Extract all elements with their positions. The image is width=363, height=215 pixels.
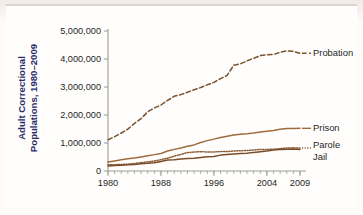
x-tick-label: 2009 [290, 178, 310, 188]
chart-figure: 01,000,0002,000,0003,000,0004,000,0005,0… [0, 0, 363, 215]
series-label-jail: Jail [313, 151, 327, 162]
series-line-probation [108, 51, 300, 140]
y-axis-title-line1: Adult Correctional [16, 56, 27, 140]
y-axis-title-line2: Populations, 1980–2009 [28, 44, 39, 152]
x-axis-ticks [108, 171, 300, 176]
line-chart: 01,000,0002,000,0003,000,0004,000,0005,0… [0, 0, 363, 215]
series-label-prison: Prison [313, 122, 340, 133]
y-axis-title: Adult Correctional Populations, 1980–200… [16, 44, 39, 152]
x-axis-tick-labels: 19801988199620042009 [98, 178, 310, 188]
series-labels-group: ProbationPrisonParoleJail [302, 47, 353, 162]
x-tick-label: 1980 [98, 178, 118, 188]
data-series-group [108, 51, 300, 166]
y-tick-label: 2,000,000 [60, 110, 101, 120]
x-tick-label: 1996 [204, 178, 224, 188]
y-tick-label: 5,000,000 [60, 26, 101, 36]
y-tick-label: 1,000,000 [60, 138, 101, 148]
y-tick-label: 4,000,000 [60, 54, 101, 64]
x-tick-label: 2004 [257, 178, 277, 188]
y-tick-label: 3,000,000 [60, 82, 101, 92]
y-axis-ticks [104, 31, 108, 171]
x-tick-label: 1988 [151, 178, 171, 188]
y-axis-tick-labels: 01,000,0002,000,0003,000,0004,000,0005,0… [60, 26, 101, 176]
series-label-probation: Probation [313, 47, 353, 58]
series-label-parole: Parole [313, 139, 340, 150]
y-tick-label: 0 [96, 166, 101, 176]
